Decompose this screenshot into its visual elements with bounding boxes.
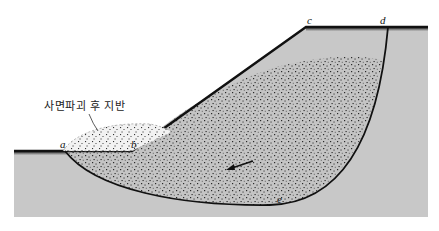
point-label-a: a	[60, 139, 66, 150]
point-label-b: b	[131, 139, 137, 150]
failed-ground-label: 사면파괴 후 지반	[44, 101, 126, 112]
upper-surface-shade	[306, 27, 428, 41]
label-leader-line	[89, 114, 98, 131]
slope-failure-diagram	[0, 0, 439, 231]
point-label-e: e	[277, 194, 282, 205]
point-label-d: d	[380, 15, 386, 26]
point-label-c: c	[307, 15, 312, 26]
